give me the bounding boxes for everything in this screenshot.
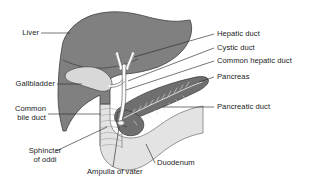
label-ampulla-of-vater: Ampulla of vater bbox=[87, 167, 143, 176]
label-common-bile-duct-line2: bile duct bbox=[2, 113, 46, 122]
label-hepatic-duct: Hepatic duct bbox=[217, 29, 260, 38]
label-pancreatic-duct: Pancreatic duct bbox=[217, 102, 270, 111]
label-sphincter-line2: of oddi bbox=[22, 155, 68, 164]
label-common-bile-duct-line1: Common bbox=[2, 104, 46, 113]
label-duodenum: Duodenum bbox=[157, 158, 195, 167]
label-pancreas: Pancreas bbox=[217, 72, 249, 81]
label-gallbladder: Gallbladder bbox=[2, 79, 55, 88]
label-liver: Liver bbox=[6, 28, 39, 37]
anatomy-diagram: Liver Gallbladder Common bile duct Sphin… bbox=[0, 0, 311, 192]
label-sphincter-line1: Sphincter bbox=[22, 146, 68, 155]
label-common-hepatic-duct: Common hepatic duct bbox=[217, 56, 292, 65]
label-cystic-duct: Cystic duct bbox=[217, 43, 255, 52]
